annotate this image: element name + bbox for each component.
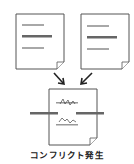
caption: コンフリクト発生 — [0, 148, 134, 160]
document-right — [81, 14, 129, 69]
document-merged — [30, 89, 104, 145]
conflict-diagram — [0, 0, 134, 164]
arrow-icon — [54, 73, 92, 84]
document-left — [16, 14, 64, 69]
